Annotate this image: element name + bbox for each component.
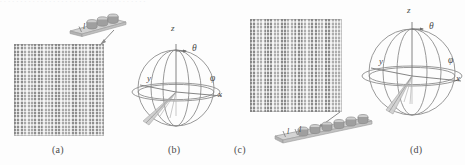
caption-d: (d) <box>410 144 422 155</box>
axis-label-z-b: z <box>171 24 175 33</box>
axis-label-phi-d: φ <box>448 56 453 66</box>
panel-c: l l (c) <box>234 0 358 165</box>
axis-label-x-d: x <box>456 74 460 83</box>
axis-label-z-d: z <box>407 6 411 15</box>
coordinate-sphere-d: z θ y φ x <box>360 10 464 128</box>
axis-label-theta-b: θ <box>192 44 197 54</box>
panel-a: l (a) <box>0 0 120 165</box>
element-spacing-label-c-1: l <box>287 128 289 136</box>
axis-label-theta-d: θ <box>429 22 434 32</box>
textbook-figure: . . . . . . . . . . . . . . . . . . . . … <box>0 0 465 165</box>
planar-array-a <box>14 44 104 136</box>
coordinate-sphere-b: z θ y φ x <box>130 30 226 132</box>
caption-b: (b) <box>168 144 180 155</box>
element-spacing-label-c-2: l <box>299 126 301 134</box>
axis-label-x-b: x <box>218 90 222 99</box>
panel-b: z θ y φ x (b) <box>122 0 232 165</box>
planar-array-c <box>250 19 342 112</box>
linear-strip-a: l <box>66 10 128 38</box>
axis-label-y-b: y <box>147 74 151 83</box>
caption-c: (c) <box>234 144 246 155</box>
caption-a: (a) <box>52 144 64 155</box>
axis-label-phi-b: φ <box>210 74 215 84</box>
panel-d: z θ y φ x (d) <box>356 0 465 165</box>
element-spacing-label-a: l <box>83 23 85 31</box>
axis-label-y-d: y <box>379 57 383 66</box>
